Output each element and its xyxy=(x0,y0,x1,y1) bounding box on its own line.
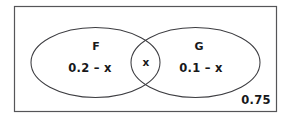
venn-diagram-figure: F 0.2 – x x G 0.1 – x 0.75 xyxy=(0,0,289,122)
region-value-intersection: x xyxy=(143,57,150,68)
region-value-f-only: 0.2 – x xyxy=(68,63,112,75)
set-label-g: G xyxy=(194,41,203,52)
region-value-outside: 0.75 xyxy=(241,95,271,107)
set-label-f: F xyxy=(92,41,100,52)
region-value-g-only: 0.1 – x xyxy=(179,63,223,75)
